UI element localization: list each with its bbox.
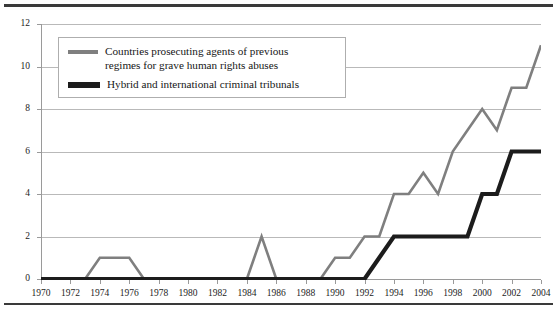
y-axis-tick-label: 4 [8,189,30,199]
x-axis-tick-mark [541,280,542,284]
x-axis-tick-mark [335,280,336,284]
x-axis-tick-label: 2004 [521,288,557,298]
x-axis-tick-mark [70,280,71,284]
x-axis-tick-mark [512,280,513,284]
y-axis-tick-label: 2 [8,232,30,242]
legend-item-countries-prosecuting: Countries prosecuting agents of previous… [68,45,288,72]
x-axis-tick-mark [100,280,101,284]
x-axis-tick-mark [423,280,424,284]
chart-figure: 024681012 197019721974197619781980198219… [0,0,557,315]
x-axis-tick-mark [276,280,277,284]
chart-legend: Countries prosecuting agents of previous… [58,37,346,98]
legend-item-label: Hybrid and international criminal tribun… [107,78,299,92]
x-axis-tick-mark [482,280,483,284]
black-line-swatch-icon [68,82,100,88]
series-line [41,152,541,280]
top-horizontal-rule [4,4,553,7]
x-axis-tick-mark [306,280,307,284]
x-axis-tick-mark [129,280,130,284]
x-axis-tick-mark [188,280,189,284]
x-axis-tick-mark [453,280,454,284]
x-axis-tick-mark [247,280,248,284]
y-axis-tick-label: 12 [8,19,30,29]
x-axis-tick-mark [365,280,366,284]
y-axis-tick-label: 8 [8,104,30,114]
y-axis-tick-label: 10 [8,62,30,72]
y-axis-tick-label: 6 [8,147,30,157]
x-axis-tick-mark [394,280,395,284]
gray-line-swatch-icon [68,50,98,54]
x-axis-tick-mark [159,280,160,284]
legend-item-hybrid-tribunals: Hybrid and international criminal tribun… [68,78,299,92]
bottom-horizontal-rule [4,303,553,305]
x-axis-tick-mark [41,280,42,284]
y-axis-tick-label: 0 [8,274,30,284]
legend-item-label: Countries prosecuting agents of previous… [105,45,288,72]
x-axis-tick-mark [217,280,218,284]
